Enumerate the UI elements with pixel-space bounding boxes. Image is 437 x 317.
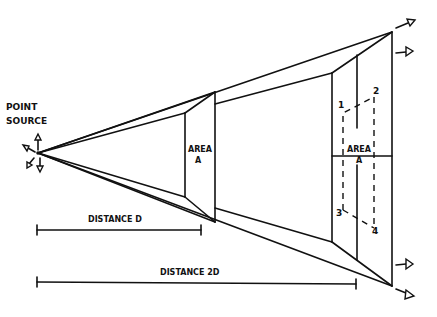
cone-top-inner-edge-near	[38, 92, 215, 153]
arrow-left-icon	[23, 145, 35, 152]
far-area-label-line2: A	[356, 156, 363, 165]
inverse-square-diagram: POINT SOURCE AREA A 1 2 3 4	[0, 0, 437, 317]
distance-d-dimension	[37, 225, 201, 235]
outgoing-rays	[396, 19, 415, 299]
corner-label-2: 2	[373, 86, 379, 96]
near-area-label-line2: A	[195, 156, 202, 165]
distance-2d-dimension	[37, 277, 356, 289]
point-source-label-line2: SOURCE	[6, 116, 47, 126]
arrow-down-left-icon	[27, 158, 34, 168]
cone-top-inner-edge	[38, 113, 185, 153]
corner-label-3: 3	[336, 208, 342, 218]
arrow-up-icon	[35, 134, 41, 150]
cone-bottom-inner-edge-near	[38, 153, 215, 222]
corner-label-4: 4	[372, 226, 378, 236]
arrow-right-top-icon	[396, 19, 415, 28]
corner-label-1: 1	[338, 100, 344, 110]
near-area-label-line1: AREA	[188, 145, 213, 154]
distance-d-label: DISTANCE D	[88, 215, 142, 224]
point-source-label-line1: POINT	[6, 102, 38, 112]
far-area-label-line1: AREA	[347, 145, 372, 154]
arrow-right-upper-icon	[396, 47, 413, 56]
arrow-right-lower-icon	[396, 259, 413, 269]
arrow-down-icon	[37, 158, 43, 172]
arrow-right-bottom-icon	[396, 289, 414, 299]
distance-2d-label: DISTANCE 2D	[160, 268, 220, 277]
cone-body	[215, 73, 332, 242]
cone-bottom-inner-edge	[38, 153, 185, 197]
